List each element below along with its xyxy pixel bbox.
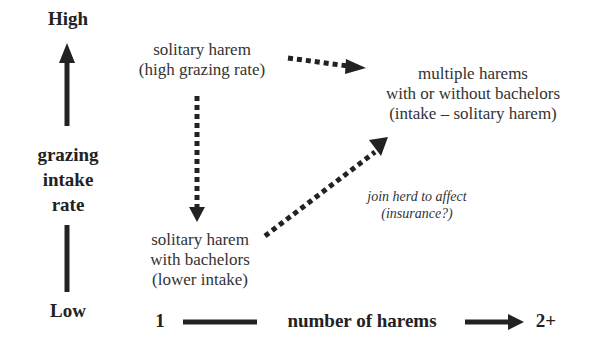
node-solitary-harem-high: solitary harem (high grazing rate) [122, 40, 282, 80]
y-axis-title-line: intake [18, 167, 118, 192]
dotted-arrow-to-multiple-icon [288, 58, 366, 74]
annotation-line: (insurance?) [352, 205, 482, 222]
node-line: (intake – solitary harem) [368, 104, 578, 124]
annotation-join-herd: join herd to affect (insurance?) [352, 188, 482, 222]
y-axis-low-label: Low [38, 300, 98, 322]
node-line: (lower intake) [125, 270, 275, 290]
y-axis-high-label: High [38, 8, 98, 30]
annotation-line: join herd to affect [352, 188, 482, 205]
node-line: multiple harems [368, 64, 578, 84]
node-solitary-harem-bachelors: solitary harem with bachelors (lower int… [125, 230, 275, 290]
node-line: solitary harem [122, 40, 282, 60]
node-line: (high grazing rate) [122, 60, 282, 80]
node-line: with or without bachelors [368, 84, 578, 104]
y-axis-title: grazing intake rate [18, 142, 118, 217]
node-line: solitary harem [125, 230, 275, 250]
x-axis-title: number of harems [272, 310, 452, 332]
y-axis-title-line: grazing [18, 142, 118, 167]
node-line: with bachelors [125, 250, 275, 270]
x-axis-left-label: 1 [150, 310, 170, 332]
node-multiple-harems: multiple harems with or without bachelor… [368, 64, 578, 124]
dotted-arrow-down-icon [189, 96, 205, 222]
x-axis-right-label: 2+ [528, 310, 564, 332]
x-axis-right-arrow-icon [465, 314, 524, 330]
y-axis-up-arrow-icon [59, 43, 75, 126]
y-axis-title-line: rate [18, 192, 118, 217]
